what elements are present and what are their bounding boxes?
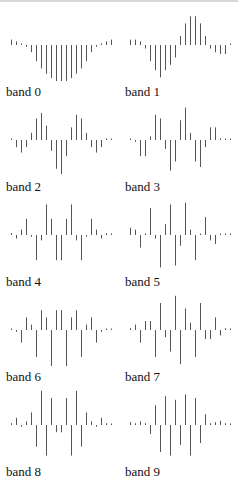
panel-band-7: band 7 <box>119 285 238 380</box>
panel-band-6: band 6 <box>0 285 119 380</box>
panel-band-3: band 3 <box>119 95 238 190</box>
stem-plot <box>0 95 119 180</box>
stem-plot <box>0 0 119 85</box>
panel-band-2: band 2 <box>0 95 119 190</box>
panel-band-5: band 5 <box>119 190 238 285</box>
panel-label: band 9 <box>125 464 160 480</box>
panel-band-1: band 1 <box>119 0 238 95</box>
panel-band-0: band 0 <box>0 0 119 95</box>
stem-plot <box>0 285 119 370</box>
stem-plot <box>119 95 238 180</box>
panel-band-4: band 4 <box>0 190 119 285</box>
panel-band-9: band 9 <box>119 380 238 475</box>
stem-plot <box>0 190 119 275</box>
panel-label: band 8 <box>6 464 41 480</box>
panel-band-8: band 8 <box>0 380 119 475</box>
stem-plot <box>119 190 238 275</box>
stem-plot <box>0 380 119 465</box>
stem-plot <box>119 0 238 85</box>
stem-plot <box>119 285 238 370</box>
stem-plot-grid: band 0 band 1 band 2 band 3 band 4 band … <box>0 0 238 487</box>
stem-plot <box>119 380 238 465</box>
